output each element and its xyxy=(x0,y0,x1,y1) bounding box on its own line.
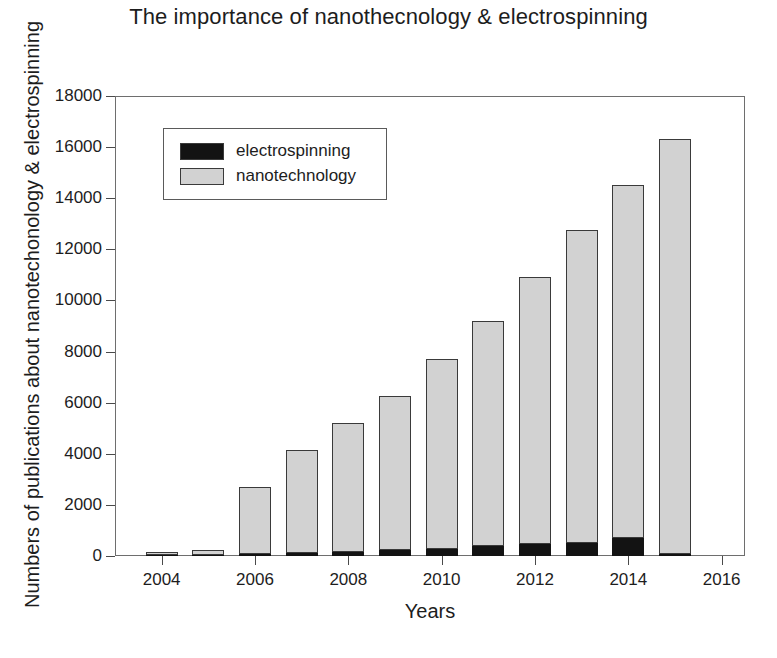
bar-segment-nanotechnology[interactable] xyxy=(286,450,318,553)
chart-title: The importance of nanothecnology & elect… xyxy=(0,4,777,30)
x-axis-tick-mark xyxy=(722,556,723,565)
y-axis-tick-mark xyxy=(106,198,115,199)
bar-segment-nanotechnology[interactable] xyxy=(612,185,644,538)
bar-segment-nanotechnology[interactable] xyxy=(566,230,598,543)
bar-segment-electrospinning[interactable] xyxy=(612,538,644,556)
bar-segment-nanotechnology[interactable] xyxy=(239,487,271,554)
chart-legend: electrospinning nanotechnology xyxy=(163,128,387,200)
bar-segment-nanotechnology[interactable] xyxy=(426,359,458,549)
y-axis-title: Numbers of publications about nanotechon… xyxy=(21,15,44,615)
y-axis-tick-mark xyxy=(106,147,115,148)
bar-stack[interactable] xyxy=(566,96,598,556)
bar-segment-electrospinning[interactable] xyxy=(332,552,364,556)
y-axis-tick-label: 4000 xyxy=(64,444,102,464)
bar-segment-nanotechnology[interactable] xyxy=(332,423,364,552)
bar-segment-electrospinning[interactable] xyxy=(379,550,411,556)
bar-segment-electrospinning[interactable] xyxy=(426,549,458,556)
y-axis-tick-label: 8000 xyxy=(64,342,102,362)
bar-stack[interactable] xyxy=(659,96,691,556)
y-axis-tick-label: 14000 xyxy=(55,188,102,208)
x-axis-tick-label: 2004 xyxy=(143,570,181,590)
x-axis-tick-mark xyxy=(255,556,256,565)
x-axis-tick-label: 2010 xyxy=(423,570,461,590)
y-axis-tick-label: 2000 xyxy=(64,495,102,515)
x-axis-tick-label: 2016 xyxy=(703,570,741,590)
bar-segment-nanotechnology[interactable] xyxy=(379,396,411,550)
y-axis-tick-label: 10000 xyxy=(55,290,102,310)
x-axis-title: Years xyxy=(115,600,745,623)
x-axis-tick-mark xyxy=(628,556,629,565)
bar-segment-nanotechnology[interactable] xyxy=(472,321,504,546)
y-axis-tick-mark xyxy=(106,454,115,455)
y-axis-tick-mark xyxy=(106,403,115,404)
bar-segment-nanotechnology[interactable] xyxy=(659,139,691,554)
bar-segment-nanotechnology[interactable] xyxy=(146,552,178,554)
y-axis-tick-mark xyxy=(106,96,115,97)
legend-label-nanotechnology: nanotechnology xyxy=(236,166,356,186)
x-axis-tick-mark xyxy=(442,556,443,565)
x-axis-tick-mark xyxy=(162,556,163,565)
legend-swatch-nanotechnology xyxy=(180,168,224,185)
y-axis-tick-mark xyxy=(106,352,115,353)
x-axis-tick-label: 2014 xyxy=(609,570,647,590)
bar-stack[interactable] xyxy=(519,96,551,556)
y-axis-tick-mark xyxy=(106,505,115,506)
x-axis-tick-mark xyxy=(535,556,536,565)
chart-page: The importance of nanothecnology & elect… xyxy=(0,0,777,658)
y-axis-tick-label: 0 xyxy=(93,546,102,566)
bar-segment-electrospinning[interactable] xyxy=(239,554,271,556)
bar-stack[interactable] xyxy=(612,96,644,556)
x-axis-tick-mark xyxy=(348,556,349,565)
x-axis-tick-label: 2008 xyxy=(329,570,367,590)
legend-item-electrospinning[interactable]: electrospinning xyxy=(180,141,350,161)
y-axis-tick-label: 18000 xyxy=(55,86,102,106)
bar-segment-electrospinning[interactable] xyxy=(519,544,551,556)
x-axis-tick-label: 2006 xyxy=(236,570,274,590)
y-axis-tick-label: 6000 xyxy=(64,393,102,413)
bar-stack[interactable] xyxy=(472,96,504,556)
bar-stack[interactable] xyxy=(426,96,458,556)
legend-label-electrospinning: electrospinning xyxy=(236,141,350,161)
bar-segment-electrospinning[interactable] xyxy=(286,553,318,556)
bar-segment-nanotechnology[interactable] xyxy=(519,277,551,543)
legend-swatch-electrospinning xyxy=(180,143,224,160)
y-axis-tick-mark xyxy=(106,249,115,250)
y-axis-tick-label: 12000 xyxy=(55,239,102,259)
y-axis-tick-mark xyxy=(106,300,115,301)
bar-segment-electrospinning[interactable] xyxy=(472,546,504,556)
bar-segment-electrospinning[interactable] xyxy=(566,543,598,556)
y-axis-tick-mark xyxy=(106,556,115,557)
y-axis-tick-label: 16000 xyxy=(55,137,102,157)
legend-item-nanotechnology[interactable]: nanotechnology xyxy=(180,166,356,186)
x-axis-tick-label: 2012 xyxy=(516,570,554,590)
bar-segment-nanotechnology[interactable] xyxy=(192,550,224,554)
